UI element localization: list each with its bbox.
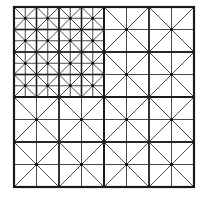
mesh-node — [47, 40, 49, 42]
mesh-node — [47, 17, 49, 19]
mesh-node — [24, 40, 26, 42]
refined-mesh-diagram — [0, 0, 201, 199]
mesh-node — [35, 163, 37, 165]
mesh-node — [125, 118, 127, 120]
mesh-node — [24, 17, 26, 19]
mesh-node — [92, 40, 94, 42]
mesh-node — [92, 85, 94, 87]
mesh-node — [170, 73, 172, 75]
mesh-node — [170, 28, 172, 30]
mesh-node — [125, 163, 127, 165]
mesh-node — [69, 17, 71, 19]
mesh-node — [125, 73, 127, 75]
mesh-node — [92, 62, 94, 64]
mesh-node — [47, 85, 49, 87]
mesh-node — [92, 17, 94, 19]
mesh-lines — [14, 7, 194, 187]
mesh-node — [170, 118, 172, 120]
mesh-node — [80, 118, 82, 120]
mesh-node — [80, 163, 82, 165]
mesh-node — [69, 62, 71, 64]
mesh-node — [35, 118, 37, 120]
mesh-node — [170, 163, 172, 165]
mesh-node — [125, 28, 127, 30]
mesh-node — [24, 62, 26, 64]
mesh-node — [47, 62, 49, 64]
mesh-node — [69, 40, 71, 42]
mesh-node — [69, 85, 71, 87]
mesh-node — [24, 85, 26, 87]
